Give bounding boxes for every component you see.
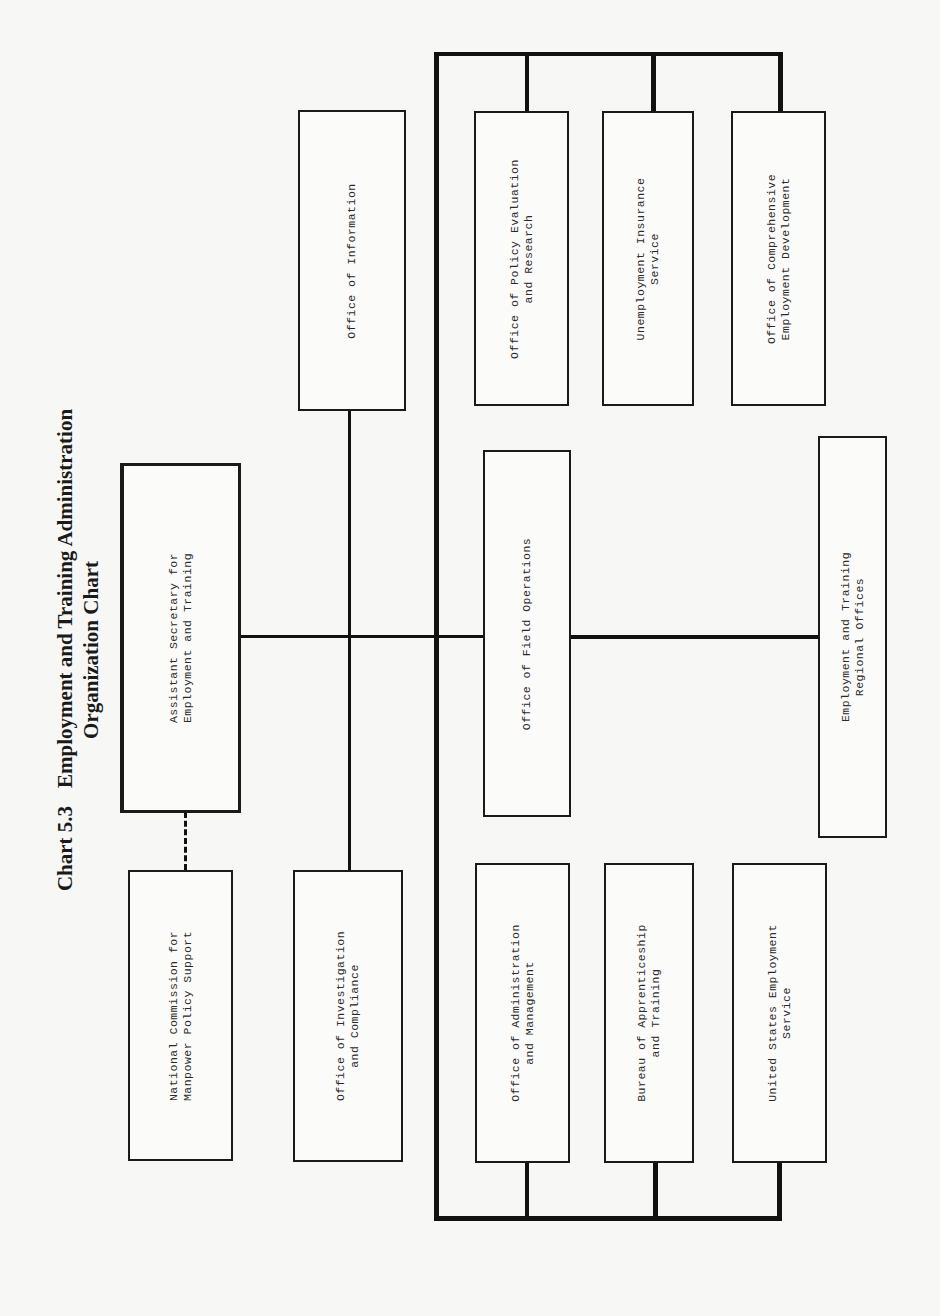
box-label: United States Employment Service <box>766 924 794 1102</box>
box-label: Employment and Training Regional Offices <box>839 552 867 722</box>
box-label: Unemployment Insurance Service <box>634 177 662 340</box>
org-chart-page: Chart 5.3Employment and Training Adminis… <box>0 0 940 1316</box>
advisory-dashed-connector <box>184 812 187 870</box>
box-office-information: Office of Information <box>298 110 406 411</box>
main-horizontal-connector <box>240 635 486 638</box>
staff-vertical-connector <box>348 410 351 870</box>
top-drop-3 <box>778 52 783 112</box>
top-bus-connector <box>434 52 782 56</box>
box-us-employment-service: United States Employment Service <box>732 863 827 1163</box>
box-office-administration: Office of Administration and Management <box>475 863 570 1163</box>
box-office-comprehensive: Office of Comprehensive Employment Devel… <box>731 111 826 406</box>
box-label: Office of Administration and Management <box>509 924 537 1102</box>
regional-connector <box>570 635 818 639</box>
bottom-riser-2 <box>653 1162 658 1218</box>
box-office-policy-evaluation: Office of Policy Evaluation and Research <box>474 111 569 406</box>
top-drop-2 <box>651 52 656 112</box>
chart-number: Chart 5.3 <box>53 806 77 891</box>
box-bureau-apprenticeship: Bureau of Apprenticeship and Training <box>604 863 694 1163</box>
bottom-bus-connector <box>434 1216 782 1221</box>
trunk-vertical-connector <box>434 52 439 1220</box>
box-label: Office of Policy Evaluation and Research <box>508 159 536 359</box>
box-label: National Commission for Manpower Policy … <box>167 930 195 1100</box>
chart-title-line2: Organization Chart <box>78 409 104 891</box>
box-label: Assistant Secretary for Employment and T… <box>167 553 195 723</box>
box-label: Office of Information <box>345 183 359 338</box>
box-label: Office of Field Operations <box>520 537 534 729</box>
box-office-investigation: Office of Investigation and Compliance <box>293 870 403 1162</box>
chart-title: Chart 5.3Employment and Training Adminis… <box>52 409 104 891</box>
box-national-commission: National Commission for Manpower Policy … <box>128 870 233 1161</box>
bottom-riser-1 <box>525 1162 529 1218</box>
box-regional-offices: Employment and Training Regional Offices <box>818 436 887 838</box>
chart-title-line1: Employment and Training Administration <box>53 409 77 788</box>
box-unemployment-insurance: Unemployment Insurance Service <box>602 111 694 406</box>
bottom-riser-3 <box>777 1162 782 1218</box>
box-label: Office of Comprehensive Employment Devel… <box>765 173 793 343</box>
box-office-field-operations: Office of Field Operations <box>483 450 571 817</box>
box-label: Bureau of Apprenticeship and Training <box>635 924 663 1102</box>
box-assistant-secretary: Assistant Secretary for Employment and T… <box>120 463 241 813</box>
box-label: Office of Investigation and Compliance <box>334 931 362 1101</box>
top-drop-1 <box>525 52 529 112</box>
